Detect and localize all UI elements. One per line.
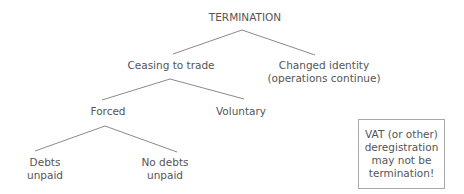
- node-ceasing-label: Ceasing to trade: [127, 59, 214, 72]
- node-debts-unpaid-line2: unpaid: [27, 169, 63, 182]
- note-line4: termination!: [369, 167, 434, 180]
- node-termination-label: TERMINATION: [209, 11, 281, 24]
- node-no-debts-unpaid-line2: unpaid: [142, 169, 189, 182]
- node-changed-identity: Changed identity (operations continue): [267, 59, 380, 85]
- node-forced: Forced: [90, 105, 125, 118]
- node-debts-unpaid-line1: Debts: [27, 156, 63, 169]
- node-ceasing-to-trade: Ceasing to trade: [127, 59, 214, 72]
- termination-tree-diagram: TERMINATION Ceasing to trade Changed ide…: [0, 0, 464, 194]
- edge-ceasing-voluntary: [170, 79, 244, 99]
- note-line2: deregistration: [365, 141, 439, 154]
- edge-ceasing-forced: [102, 79, 170, 100]
- vat-deregistration-note-box: VAT (or other) deregistration may not be…: [358, 119, 445, 189]
- edge-termination-changed: [242, 30, 315, 55]
- node-no-debts-unpaid-line1: No debts: [142, 156, 189, 169]
- note-line1: VAT (or other): [365, 128, 438, 141]
- node-forced-label: Forced: [90, 105, 125, 118]
- note-line3: may not be: [372, 154, 432, 167]
- node-changed-line2: (operations continue): [267, 72, 380, 85]
- node-changed-line1: Changed identity: [267, 59, 380, 72]
- node-debts-unpaid: Debts unpaid: [27, 156, 63, 182]
- node-no-debts-unpaid: No debts unpaid: [142, 156, 189, 182]
- node-termination: TERMINATION: [209, 11, 281, 24]
- edge-forced-no-debts-unpaid: [105, 126, 177, 152]
- node-voluntary-label: Voluntary: [216, 105, 266, 118]
- node-voluntary: Voluntary: [216, 105, 266, 118]
- edge-termination-ceasing: [173, 30, 242, 54]
- edge-forced-debts-unpaid: [35, 126, 105, 151]
